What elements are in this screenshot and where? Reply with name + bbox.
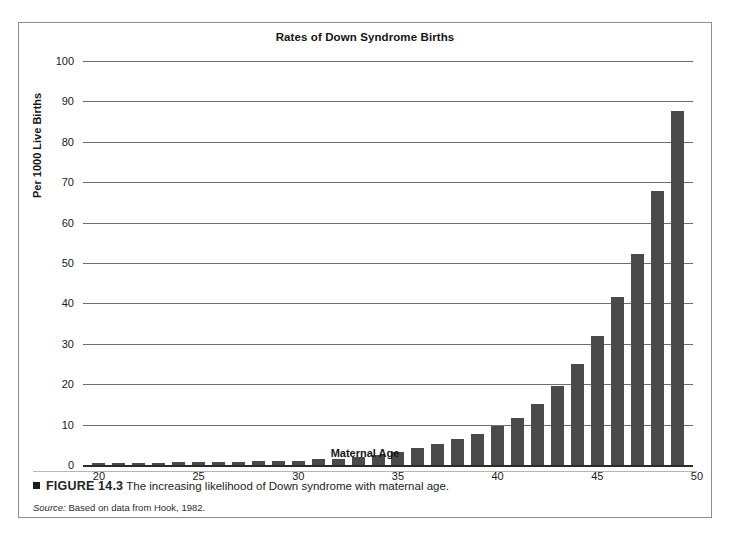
y-tick-label: 70 [62, 176, 74, 188]
caption-divider [33, 471, 697, 472]
y-tick-label: 50 [62, 257, 74, 269]
figure-source-label: Source: [33, 502, 66, 513]
y-tick-label: 100 [56, 55, 74, 67]
figure-source-text: Based on data from Hook, 1982. [66, 502, 205, 513]
bar [631, 254, 644, 465]
y-tick-label: 40 [62, 297, 74, 309]
bar [671, 111, 684, 465]
y-tick-label: 0 [68, 459, 74, 471]
bars-layer [83, 61, 693, 465]
bar [611, 297, 624, 465]
y-tick-label: 20 [62, 378, 74, 390]
y-tick-label: 60 [62, 217, 74, 229]
square-bullet-icon [33, 482, 40, 489]
plot-area: 0102030405060708090100 20253035404550 [83, 61, 693, 465]
figure-caption: FIGURE 14.3 The increasing likelihood of… [33, 479, 697, 495]
x-axis-title: Maternal Age [19, 447, 711, 459]
y-tick-label: 80 [62, 136, 74, 148]
y-tick-label: 30 [62, 338, 74, 350]
y-tick-label: 10 [62, 419, 74, 431]
bar [491, 426, 504, 465]
figure-frame: Rates of Down Syndrome Births Per 1000 L… [18, 22, 712, 518]
figure-number: FIGURE 14.3 [46, 479, 123, 493]
bar [651, 191, 664, 465]
figure-caption-text: The increasing likelihood of Down syndro… [126, 480, 449, 492]
figure-source: Source: Based on data from Hook, 1982. [33, 502, 697, 513]
caption-block: FIGURE 14.3 The increasing likelihood of… [19, 471, 711, 513]
chart-title: Rates of Down Syndrome Births [19, 31, 711, 43]
y-tick-label: 90 [62, 95, 74, 107]
bar [591, 336, 604, 465]
y-axis-title: Per 1000 Live Births [31, 93, 43, 198]
